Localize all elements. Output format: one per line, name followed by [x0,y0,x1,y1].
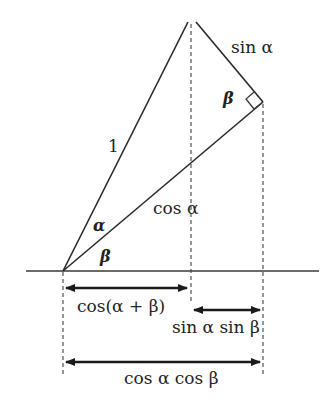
label-sin-alpha: sin α [231,37,274,57]
label-angle-alpha: α [93,216,105,235]
label-hypotenuse: 1 [108,136,119,156]
label-angle-beta-top: β [222,89,234,108]
trig-diagram: 1 sin α cos α α β β cos(α + β) sin α sin… [0,0,331,410]
cos-alpha-side [63,102,263,271]
label-cos-sum: cos(α + β) [77,296,165,316]
right-angle-marker [246,92,263,109]
label-cos-alpha: cos α [153,198,199,218]
label-cos-cos: cos α cos β [124,368,218,388]
label-angle-beta-origin: β [99,247,111,266]
hypotenuse-line [63,22,188,271]
label-sin-sin: sin α sin β [172,317,260,337]
